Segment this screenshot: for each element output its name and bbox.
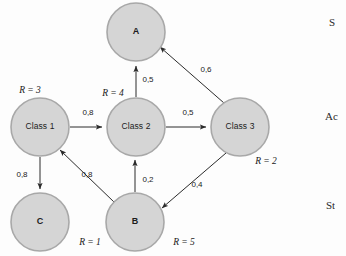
side-text-fragment-middle: Ac — [325, 110, 338, 122]
node-label-class1: Class 1 — [25, 121, 54, 131]
edge-class3-a — [160, 47, 224, 103]
diagram-canvas: A Class 1 Class 2 Class 3 B C R = 3 R = … — [0, 0, 346, 256]
node-label-class2: Class 2 — [121, 121, 150, 131]
node-label-class3: Class 3 — [225, 121, 254, 131]
edge-weight-class1-class2: 0,8 — [82, 108, 94, 117]
rank-label-b: R = 5 — [172, 237, 195, 247]
side-text-fragment-top: S — [329, 16, 335, 28]
side-text-fragment-bottom: St — [326, 199, 335, 211]
edge-weight-b-class2: 0,2 — [142, 175, 154, 184]
edge-weight-class3-a: 0,6 — [200, 65, 212, 74]
node-label-b: B — [132, 216, 139, 226]
edge-weight-class1-c: 0,8 — [16, 170, 28, 179]
edge-weight-class2-class3: 0,5 — [182, 108, 194, 117]
node-label-a: A — [133, 26, 140, 36]
node-label-c: C — [37, 216, 44, 226]
rank-label-class1: R = 3 — [18, 85, 41, 95]
rank-label-class3: R = 2 — [254, 156, 277, 166]
edge-weight-b-class1: 0,8 — [81, 170, 93, 179]
rank-label-class2: R = 4 — [101, 88, 124, 98]
edge-weight-class3-b: 0,4 — [191, 180, 203, 189]
directed-graph: A Class 1 Class 2 Class 3 B C R = 3 R = … — [0, 0, 346, 256]
edge-weight-class2-a: 0,5 — [142, 75, 154, 84]
rank-label-c: R = 1 — [78, 237, 101, 247]
